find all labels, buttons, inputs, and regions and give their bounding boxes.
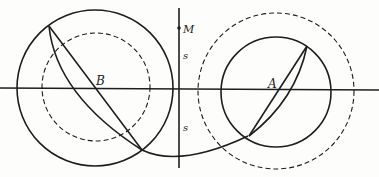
connecting-arc: [142, 136, 248, 156]
chord-a: [249, 46, 307, 136]
label-s-upper: s: [183, 50, 188, 61]
label-s-lower: s: [183, 122, 188, 133]
label-b: B: [95, 74, 105, 88]
label-m: M: [182, 23, 195, 36]
diagram-svg: M s s B A: [0, 0, 379, 177]
label-a: A: [267, 77, 277, 91]
circle-a-solid: [221, 37, 331, 147]
geometry-diagram: M s s B A: [0, 0, 379, 177]
point-m: [177, 26, 181, 30]
horizontal-axis: [0, 88, 379, 90]
